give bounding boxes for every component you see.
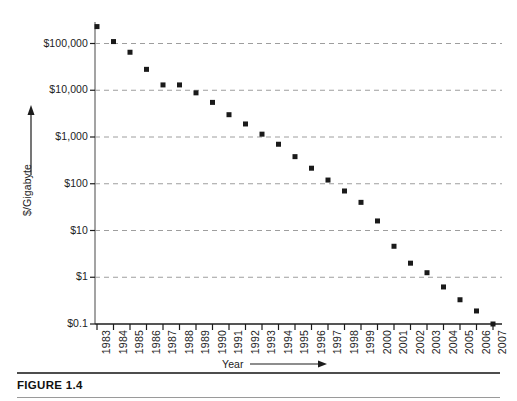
y-axis-title-label: $/Gigabyte (21, 164, 33, 216)
x-axis-tick-label: 1989 (200, 330, 211, 354)
x-axis-tick-label: 1997 (332, 330, 343, 354)
caption-rule-bottom (17, 397, 500, 398)
x-axis-tick-label: 1986 (151, 330, 162, 354)
x-axis-tick-label: 1994 (283, 330, 294, 354)
x-axis-tick-label: 1985 (134, 330, 145, 354)
x-axis-tick-label: 1993 (266, 330, 277, 354)
x-axis-tick-label: 1996 (316, 330, 327, 354)
x-axis-tick-label: 1984 (118, 330, 129, 354)
x-axis-tick-label: 2005 (464, 330, 475, 354)
x-axis-tick-label: 1983 (101, 330, 112, 354)
y-axis-title: $/Gigabyte (18, 110, 36, 270)
x-axis-tick-label: 2001 (398, 330, 409, 354)
x-axis-arrow-icon (250, 359, 328, 369)
x-axis-tick-label: 1998 (349, 330, 360, 354)
caption-rule-top (17, 372, 500, 374)
x-axis-tick-label: 2003 (431, 330, 442, 354)
x-axis-tick-label: 2004 (448, 330, 459, 354)
x-axis-tick-label: 2000 (382, 330, 393, 354)
figure-container: $0.1$1$10$100$1,000$10,000$100,000 19831… (0, 0, 517, 401)
x-axis-tick-label: 2006 (481, 330, 492, 354)
x-axis-title: Year (222, 356, 328, 372)
figure-caption-label: FIGURE 1.4 (17, 379, 83, 391)
x-axis-title-label: Year (222, 358, 244, 370)
x-axis-tick-label: 1988 (184, 330, 195, 354)
x-axis-tick-label: 1991 (233, 330, 244, 354)
x-axis-tick-label: 1987 (167, 330, 178, 354)
x-axis-tick-label: 1990 (217, 330, 228, 354)
x-axis-tick-label: 1992 (250, 330, 261, 354)
x-axis-tick-label: 1995 (299, 330, 310, 354)
x-axis-tick-label: 1999 (365, 330, 376, 354)
x-axis-tick-label-group: 1983198419851986198719881989199019911992… (0, 0, 517, 401)
x-axis-tick-label: 2002 (415, 330, 426, 354)
x-axis-tick-label: 2007 (497, 330, 508, 354)
